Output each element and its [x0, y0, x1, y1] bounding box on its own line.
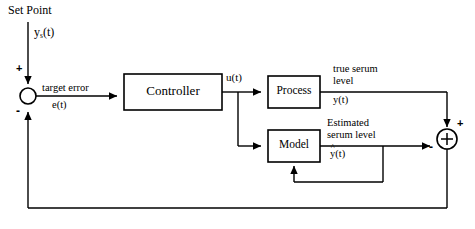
target-error-label: target error	[42, 82, 89, 93]
error-junction-plus-sign: +	[16, 62, 22, 74]
set-point-signal-arg: (t)	[43, 25, 54, 39]
controller-block-label: Controller	[124, 83, 222, 99]
hat-accent-icon: ^	[331, 144, 335, 152]
estimated-signal-base: ^y	[330, 148, 335, 159]
residual-junction-plus-sign: +	[457, 117, 463, 129]
estimated-serum-level-label-line1: Estimated	[327, 117, 369, 128]
error-junction	[20, 88, 36, 104]
error-junction-minus-sign: -	[16, 104, 20, 118]
true-serum-level-label-line1: true serum	[333, 63, 378, 74]
control-signal-label: u(t)	[226, 72, 242, 84]
model-block-label: Model	[268, 138, 320, 150]
set-point-signal: ys(t)	[34, 26, 54, 40]
true-serum-signal-label: y(t)	[333, 94, 348, 105]
true-serum-level-label-line2: level	[333, 75, 353, 86]
estimated-signal-arg: (t)	[335, 148, 345, 159]
set-point-title: Set Point	[8, 4, 52, 17]
error-signal-label: e(t)	[52, 99, 67, 110]
estimated-serum-signal-label: ^y(t)	[330, 148, 345, 159]
residual-junction-minus-sign: -	[429, 140, 433, 154]
process-block-label: Process	[268, 84, 320, 96]
estimated-serum-level-label-line2: serum level	[327, 129, 376, 140]
block-diagram-canvas	[0, 0, 475, 229]
